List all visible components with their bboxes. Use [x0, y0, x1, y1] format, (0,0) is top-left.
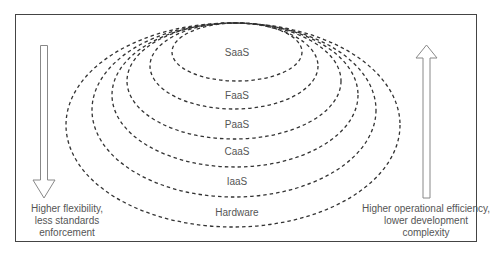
right-arrow-caption: Higher operational efficiency, lower dev…	[348, 203, 493, 239]
arrow-up-icon	[416, 45, 437, 198]
caption-line: enforcement	[22, 227, 112, 239]
caption-line: Higher operational efficiency,	[348, 203, 493, 215]
caption-line: Higher flexibility,	[22, 203, 112, 215]
arrow-down-icon	[33, 46, 55, 199]
layer-label-caas: CaaS	[224, 146, 249, 157]
layer-label-hardware: Hardware	[215, 207, 258, 218]
caption-line: less standards	[22, 215, 112, 227]
layer-label-paas: PaaS	[225, 119, 249, 130]
layer-label-faas: FaaS	[225, 90, 249, 101]
layer-label-saas: SaaS	[225, 47, 249, 58]
caption-line: complexity	[348, 227, 493, 239]
layer-label-iaas: IaaS	[227, 176, 248, 187]
left-arrow-caption: Higher flexibility, less standards enfor…	[22, 203, 112, 239]
caption-line: lower development	[348, 215, 493, 227]
